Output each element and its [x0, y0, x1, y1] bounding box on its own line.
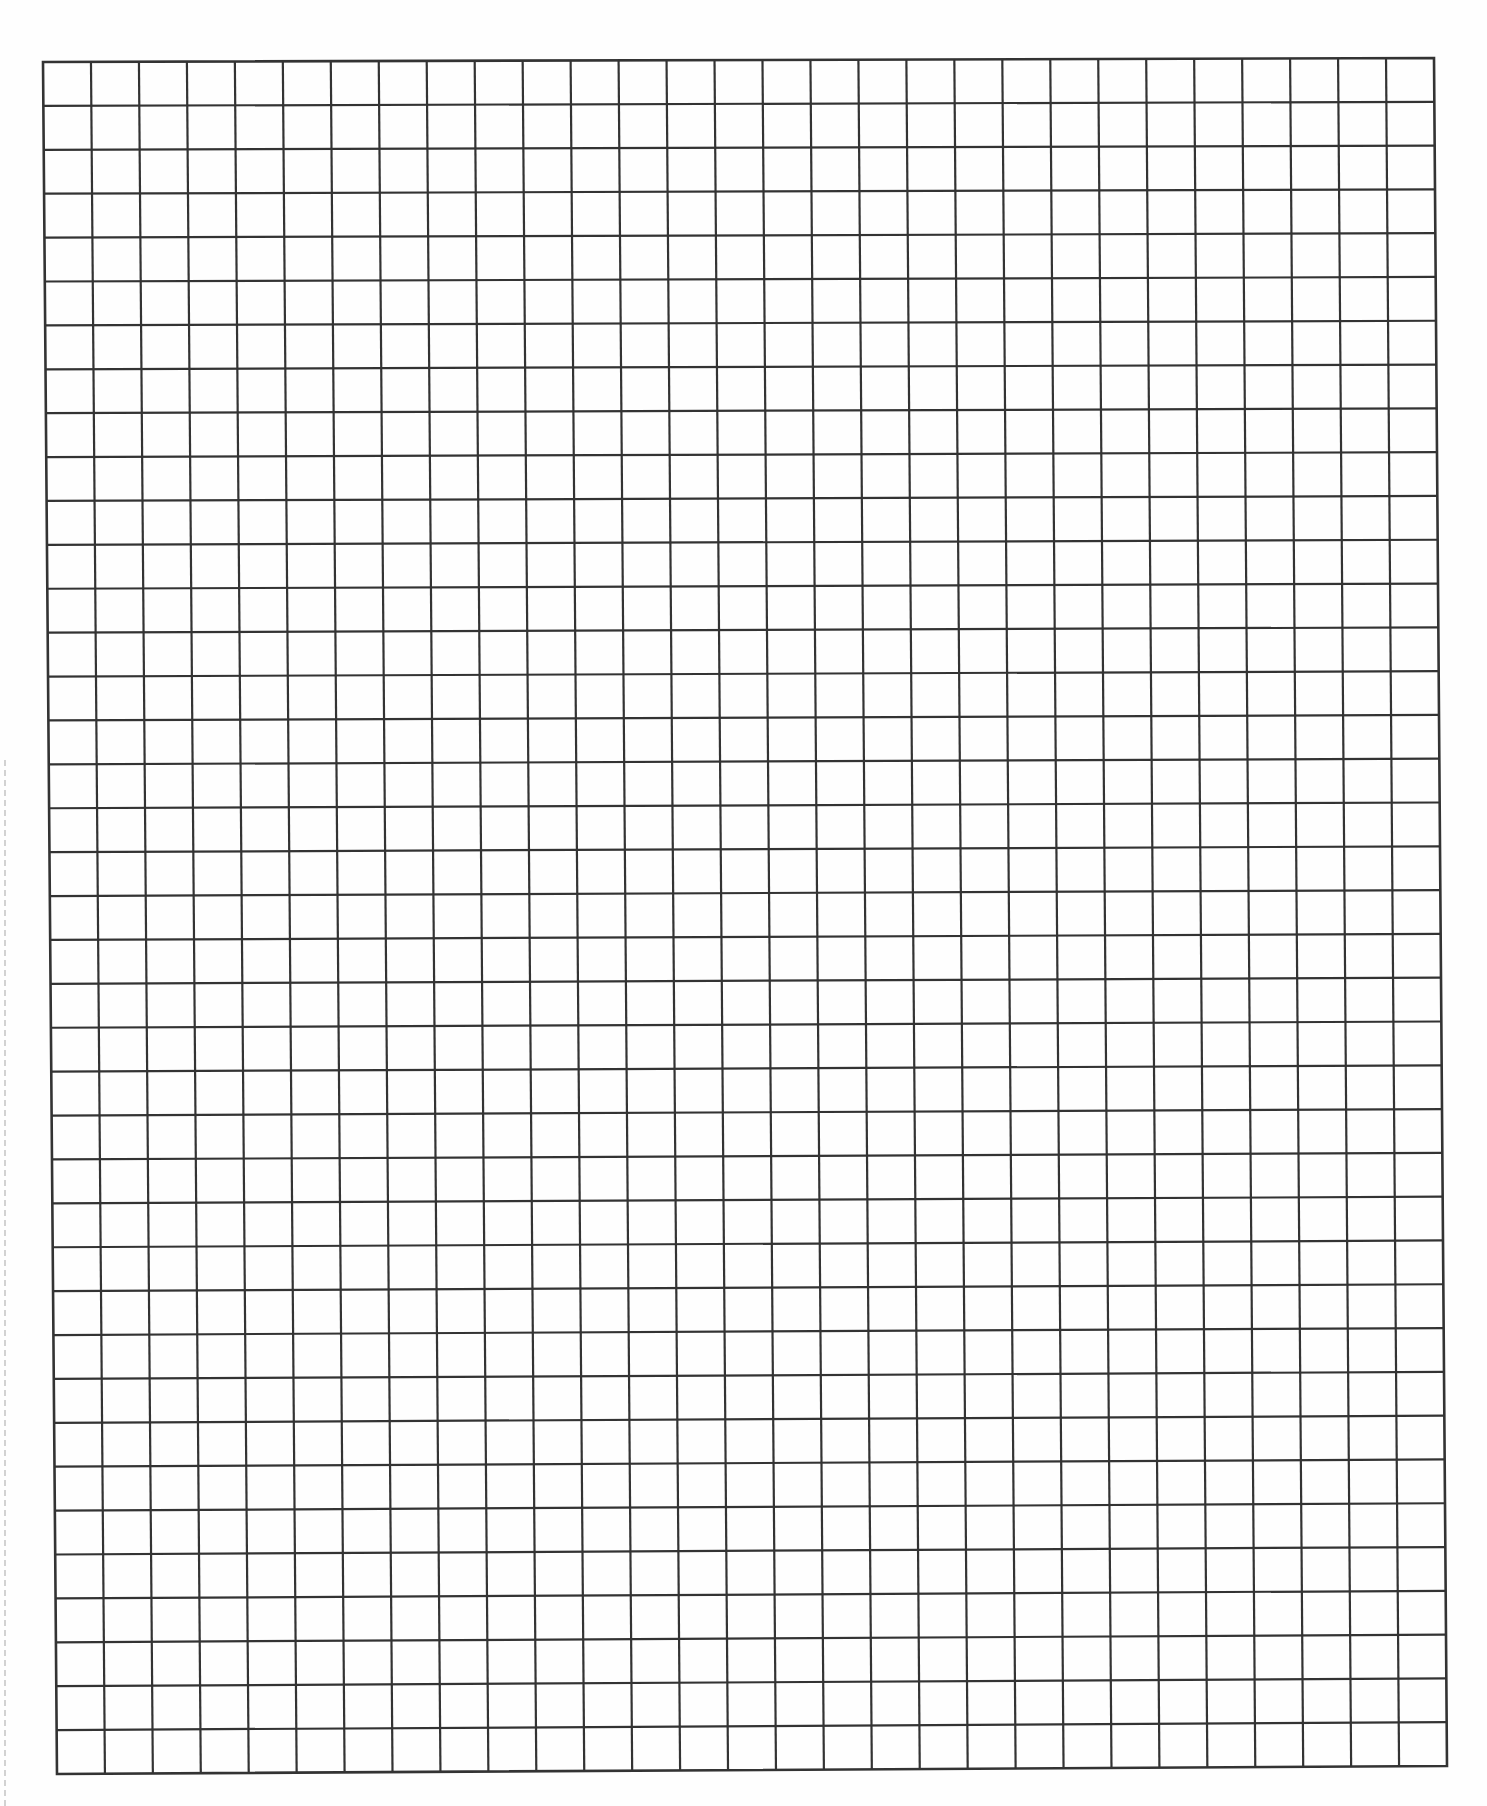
- grid-vertical-line: [906, 60, 919, 1770]
- grid-vertical-line: [379, 61, 393, 1772]
- grid-horizontal-line: [48, 627, 1439, 632]
- grid-horizontal-line: [50, 934, 1440, 940]
- grid-horizontal-line: [45, 277, 1436, 282]
- grid-horizontal-line: [48, 715, 1439, 721]
- grid-horizontal-line: [53, 1284, 1443, 1291]
- grid-horizontal-line: [55, 1503, 1445, 1510]
- grid-horizontal-line: [46, 365, 1437, 370]
- grid-horizontal-line: [51, 1021, 1441, 1027]
- grid-horizontal-line: [49, 846, 1440, 852]
- grid-border: [43, 58, 1447, 1774]
- grid-horizontal-line: [47, 540, 1438, 545]
- grid-horizontal-line: [44, 233, 1435, 237]
- grid-vertical-line: [283, 61, 297, 1772]
- grid-vertical-line: [619, 60, 633, 1770]
- graph-paper-page: [0, 0, 1487, 1806]
- grid-vertical-line: [427, 61, 441, 1772]
- grid-vertical-line: [1386, 58, 1399, 1766]
- grid-horizontal-line: [54, 1372, 1444, 1379]
- grid-vertical-line: [1146, 59, 1159, 1768]
- grid-vertical-line: [91, 62, 105, 1774]
- grid-lines: [43, 58, 1446, 1774]
- grid-vertical-line: [858, 60, 871, 1770]
- grid-horizontal-line: [51, 1065, 1441, 1071]
- grid-horizontal-line: [51, 978, 1441, 984]
- grid-horizontal-line: [44, 146, 1435, 150]
- grid-horizontal-line: [56, 1635, 1446, 1643]
- grid-vertical-line: [187, 62, 201, 1774]
- grid-vertical-line: [331, 61, 345, 1772]
- grid-vertical-line: [762, 60, 775, 1770]
- grid-vertical-line: [139, 62, 153, 1774]
- grid-vertical-line: [1290, 58, 1303, 1766]
- grid-horizontal-line: [53, 1328, 1443, 1335]
- grid-horizontal-line: [52, 1197, 1442, 1204]
- grid-horizontal-line: [47, 496, 1438, 501]
- grid-horizontal-line: [54, 1416, 1444, 1423]
- grid-horizontal-line: [48, 671, 1439, 676]
- grid-vertical-line: [1242, 59, 1255, 1768]
- grid-vertical-line: [475, 61, 489, 1772]
- grid-horizontal-line: [47, 584, 1438, 589]
- grid-vertical-line: [667, 60, 681, 1770]
- grid-vertical-line: [810, 60, 823, 1770]
- grid-vertical-line: [1002, 59, 1015, 1768]
- grid-vertical-line: [715, 60, 729, 1770]
- grid-vertical-line: [523, 61, 537, 1772]
- grid-horizontal-line: [53, 1240, 1443, 1247]
- grid-vertical-line: [235, 61, 249, 1772]
- grid-vertical-line: [1338, 58, 1351, 1766]
- grid-horizontal-line: [55, 1547, 1445, 1554]
- grid-horizontal-line: [52, 1153, 1442, 1160]
- grid-horizontal-line: [43, 102, 1434, 106]
- grid-horizontal-line: [49, 803, 1440, 809]
- grid-horizontal-line: [50, 890, 1441, 896]
- grid-horizontal-line: [45, 321, 1436, 326]
- grid-horizontal-line: [56, 1678, 1446, 1686]
- grid-horizontal-line: [46, 408, 1437, 413]
- grid-horizontal-line: [56, 1591, 1446, 1599]
- grid-horizontal-line: [49, 759, 1440, 765]
- grid-vertical-line: [571, 60, 585, 1770]
- grid-vertical-line: [1098, 59, 1111, 1768]
- grid-horizontal-line: [46, 452, 1437, 457]
- grid-horizontal-line: [57, 1722, 1447, 1730]
- square-grid: [0, 0, 1487, 1806]
- grid-vertical-line: [1050, 59, 1063, 1768]
- grid-horizontal-line: [54, 1459, 1444, 1466]
- grid-vertical-line: [1194, 59, 1207, 1768]
- grid-horizontal-line: [52, 1109, 1442, 1115]
- grid-vertical-line: [954, 59, 967, 1768]
- grid-horizontal-line: [44, 189, 1435, 193]
